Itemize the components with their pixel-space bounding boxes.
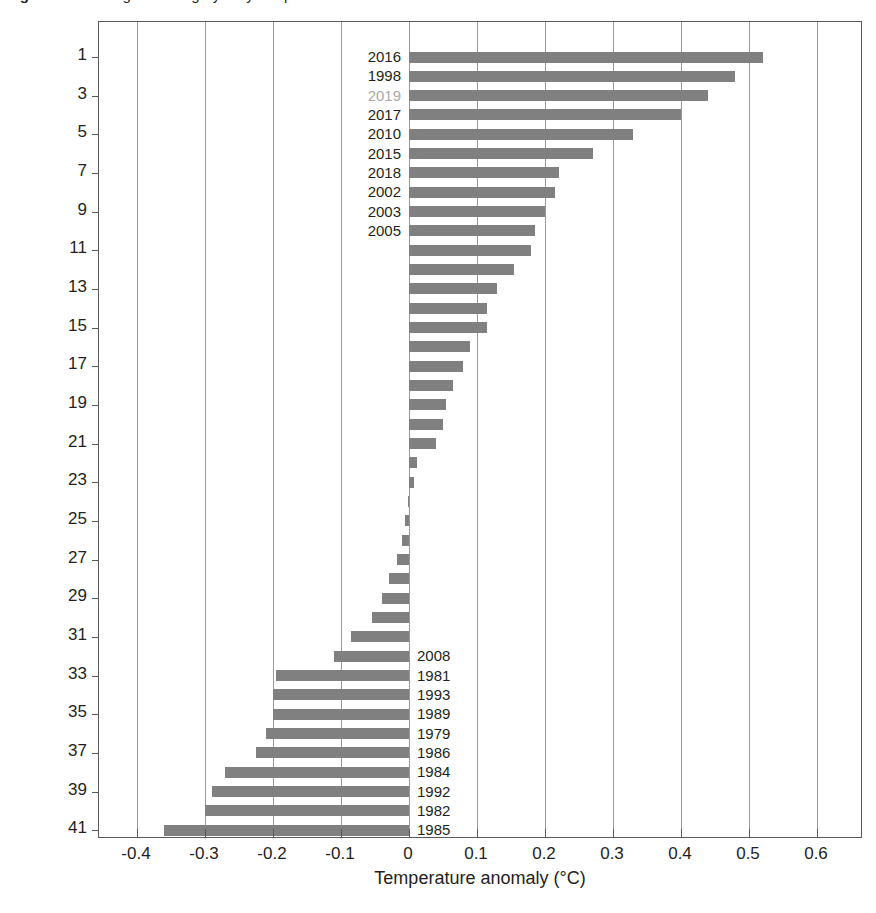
bar: [409, 341, 470, 352]
bar: [409, 303, 487, 314]
bar: [409, 361, 463, 372]
y-axis-tick-label: 23: [68, 470, 87, 490]
x-axis-tick: [409, 829, 410, 837]
bar: [256, 747, 409, 758]
year-label: 1989: [417, 707, 463, 720]
y-axis-tick-label: 37: [68, 741, 87, 761]
y-axis-tick-label: 21: [68, 432, 87, 452]
bar: [276, 670, 409, 681]
year-label: 2018: [355, 166, 401, 179]
x-axis-tick: [545, 829, 546, 837]
x-axis-tick: [341, 829, 342, 837]
year-label: 1984: [417, 765, 463, 778]
year-label: 2015: [355, 147, 401, 160]
y-axis-tick: [92, 792, 99, 793]
bar: [409, 167, 559, 178]
bar: [409, 438, 436, 449]
bar: [408, 496, 409, 507]
bar: [372, 612, 409, 623]
y-axis-tick-label: 7: [78, 161, 87, 181]
year-label: 1992: [417, 785, 463, 798]
y-axis-tick: [92, 134, 99, 135]
bar: [409, 245, 531, 256]
bar: [389, 573, 409, 584]
y-axis-tick-label: 39: [68, 780, 87, 800]
bar: [409, 380, 453, 391]
y-axis-tick-label: 11: [69, 238, 87, 258]
year-label: 1993: [417, 688, 463, 701]
figure-title-text: Ranking of average yearly temperature an…: [75, 0, 416, 3]
bar: [409, 283, 497, 294]
y-axis-tick: [92, 173, 99, 174]
year-label: 1985: [417, 823, 463, 836]
bar: [409, 129, 633, 140]
y-axis-tick: [92, 57, 99, 58]
year-label: 2005: [355, 224, 401, 237]
bar: [397, 554, 409, 565]
y-axis-tick-label: 19: [68, 393, 87, 413]
x-axis-tick: [817, 829, 818, 837]
y-axis-tick-label: 29: [68, 586, 87, 606]
bar: [409, 90, 708, 101]
gridline: [681, 22, 682, 837]
y-axis-tick: [92, 521, 99, 522]
gridline: [137, 22, 138, 837]
x-axis-title: Temperature anomaly (°C): [98, 868, 862, 889]
bar: [409, 419, 443, 430]
year-label: 2008: [417, 649, 463, 662]
y-axis-tick: [92, 328, 99, 329]
y-axis-tick-label: 31: [68, 625, 87, 645]
year-label: 1982: [417, 804, 463, 817]
bar: [212, 786, 409, 797]
bar: [351, 631, 409, 642]
year-label: 1998: [355, 69, 401, 82]
bar: [405, 515, 409, 526]
y-axis-tick-label: 13: [68, 277, 87, 297]
y-axis-tick-label: 15: [68, 316, 87, 336]
year-label: 1981: [417, 669, 463, 682]
y-axis-tick-label: 25: [68, 509, 87, 529]
bar: [266, 728, 409, 739]
y-axis-tick: [92, 830, 99, 831]
x-axis-tick: [137, 829, 138, 837]
bar: [409, 148, 593, 159]
bar: [409, 187, 555, 198]
y-axis-tick: [92, 96, 99, 97]
y-axis-tick: [92, 212, 99, 213]
x-axis-tick: [613, 829, 614, 837]
bar: [402, 535, 409, 546]
gridline: [749, 22, 750, 837]
y-axis-tick: [92, 444, 99, 445]
y-axis-tick: [92, 289, 99, 290]
bar: [409, 71, 735, 82]
bar: [409, 109, 681, 120]
figure-container: Figure 5. Ranking of average yearly temp…: [0, 0, 876, 913]
y-axis-tick: [92, 560, 99, 561]
gridline: [817, 22, 818, 837]
x-axis-tick: [681, 829, 682, 837]
bar: [409, 52, 763, 63]
y-axis-tick: [92, 250, 99, 251]
year-label: 2019: [355, 89, 401, 102]
y-axis-tick: [92, 598, 99, 599]
y-axis-tick-label: 1: [78, 45, 87, 65]
bar: [409, 206, 545, 217]
x-axis-tick: [477, 829, 478, 837]
bar: [205, 805, 409, 816]
y-axis-tick: [92, 714, 99, 715]
y-axis-tick-label: 41: [68, 818, 87, 838]
year-label: 2016: [355, 50, 401, 63]
y-axis-tick-label: 35: [68, 702, 87, 722]
bar: [409, 399, 446, 410]
y-axis-tick-label: 9: [78, 200, 87, 220]
bar: [273, 689, 409, 700]
bar: [409, 477, 414, 488]
x-axis-tick-label: 0.6: [776, 844, 856, 864]
figure-title: Figure 5. Ranking of average yearly temp…: [6, 0, 416, 3]
y-axis-tick: [92, 405, 99, 406]
gridline: [205, 22, 206, 837]
gridline: [613, 22, 614, 837]
bar: [164, 825, 409, 836]
year-label: 2010: [355, 127, 401, 140]
x-axis-tick: [205, 829, 206, 837]
